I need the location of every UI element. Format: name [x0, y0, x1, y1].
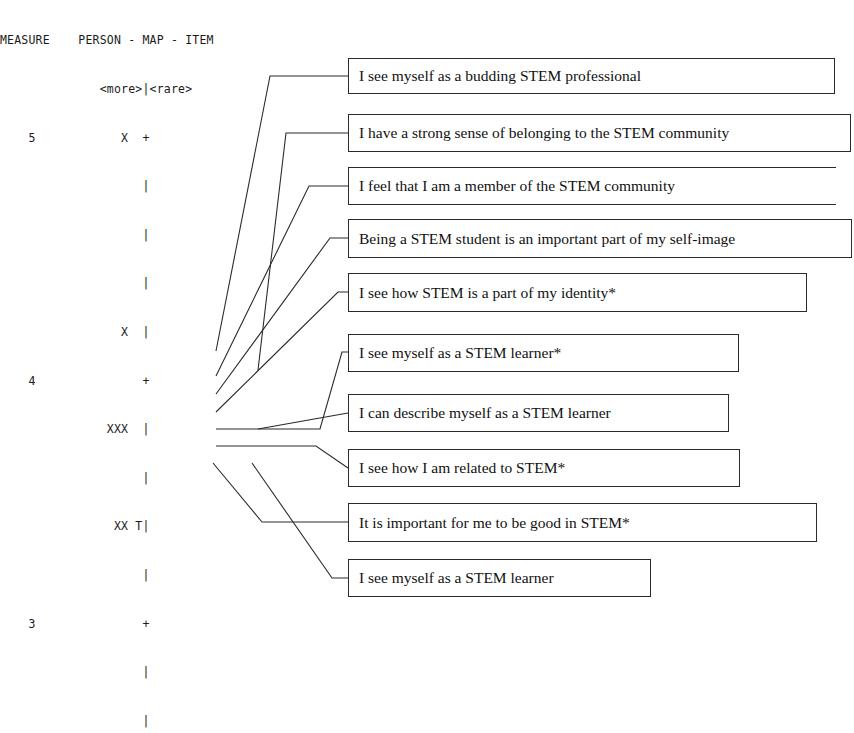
item-callout-d4: It is important for me to be good in STE…	[348, 503, 817, 542]
map-line-top-legend: <more>|<rare>	[0, 81, 340, 97]
map-line-03: |	[0, 178, 340, 194]
ascii-wright-map: MEASURE PERSON - MAP - ITEM <more>|<rare…	[0, 0, 340, 733]
item-callout-d9: I see myself as a STEM learner	[348, 559, 651, 597]
map-line-08: XXX |	[0, 421, 340, 437]
item-callout-d2: I see myself as a STEM learner*	[348, 334, 739, 372]
map-line-06: X |	[0, 324, 340, 340]
map-line-header-title: MEASURE PERSON - MAP - ITEM	[0, 32, 340, 48]
wright-map-figure: MEASURE PERSON - MAP - ITEM <more>|<rare…	[0, 0, 854, 733]
item-callout-d7: I see how STEM is a part of my identity*	[348, 273, 807, 312]
map-line-10: XX T|	[0, 518, 340, 534]
item-callout-d6: I can describe myself as a STEM learner	[348, 394, 729, 432]
map-line-measure-5: 5 X +	[0, 130, 340, 146]
item-callout-d8: I see myself as a budding STEM professio…	[348, 58, 835, 94]
map-line-09: |	[0, 470, 340, 486]
map-line-13: |	[0, 664, 340, 680]
map-line-04: |	[0, 227, 340, 243]
item-callout-d1: Being a STEM student is an important par…	[348, 219, 852, 258]
map-line-05: |	[0, 275, 340, 291]
map-line-11: |	[0, 567, 340, 583]
item-callout-d5: I have a strong sense of belonging to th…	[348, 114, 851, 152]
map-line-measure-3: 3 +	[0, 616, 340, 632]
item-callout-d3: I see how I am related to STEM*	[348, 449, 740, 487]
item-callout-d10: I feel that I am a member of the STEM co…	[348, 167, 836, 205]
map-line-14: |	[0, 713, 340, 729]
map-line-measure-4: 4 +	[0, 373, 340, 389]
